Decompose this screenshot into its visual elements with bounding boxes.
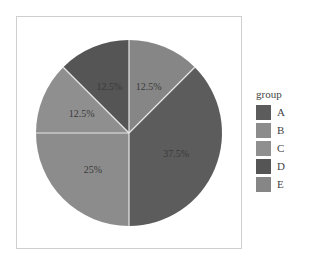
legend-key: [256, 123, 271, 138]
legend-label: E: [277, 178, 284, 190]
slice-label-c: 12.5%: [69, 108, 95, 119]
legend-key: [256, 159, 271, 174]
legend-item-e: E: [256, 176, 285, 192]
slice-label-b: 25%: [84, 164, 102, 175]
slice-label-e: 12.5%: [136, 81, 162, 92]
legend-item-c: C: [256, 140, 285, 156]
legend-key: [256, 105, 271, 120]
legend-item-b: B: [256, 122, 285, 138]
legend-key: [256, 141, 271, 156]
legend-item-d: D: [256, 158, 285, 174]
pie-slice-b: [36, 133, 129, 226]
slice-label-d: 12.5%: [97, 81, 123, 92]
legend-title: group: [256, 88, 285, 100]
legend-label: B: [277, 124, 284, 136]
slice-label-a: 37.5%: [163, 148, 189, 159]
legend-label: A: [277, 106, 285, 118]
legend-item-a: A: [256, 104, 285, 120]
legend-label: D: [277, 160, 285, 172]
legend: group ABCDE: [256, 88, 285, 194]
legend-key: [256, 177, 271, 192]
legend-label: C: [277, 142, 284, 154]
